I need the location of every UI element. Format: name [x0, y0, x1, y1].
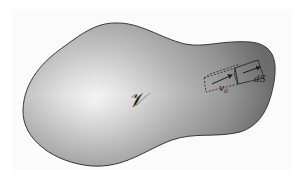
- velocity-subscript: 0: [224, 87, 228, 94]
- volume-diagram: 𝒱 v0 dS: [0, 0, 305, 182]
- diagram-canvas: 𝒱 v0 dS: [0, 0, 305, 182]
- surface-element-label: dS: [254, 74, 266, 84]
